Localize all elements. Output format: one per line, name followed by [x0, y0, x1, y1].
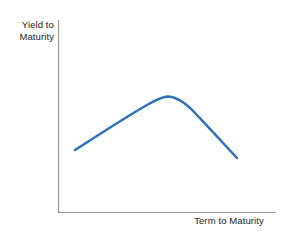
yield-curve-chart: Yield to Maturity Term to Maturity [0, 0, 285, 231]
yield-curve-line [75, 97, 237, 159]
y-axis-label: Yield to Maturity [2, 19, 54, 42]
x-axis-label: Term to Maturity [178, 215, 280, 227]
